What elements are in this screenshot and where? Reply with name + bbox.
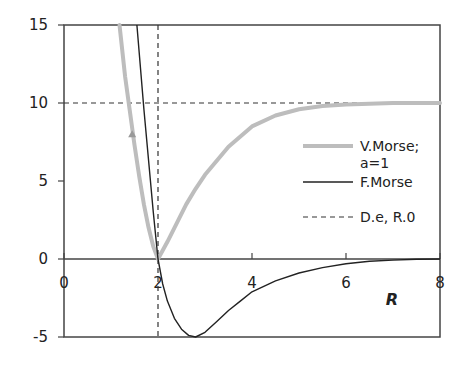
legend-vmorse-label: V.Morse;	[360, 138, 419, 154]
x-tick-label: 0	[59, 274, 69, 292]
y-tick-label: 15	[29, 16, 48, 34]
morse-potential-chart: 15 10 5 0 -5 0 2 4 6 8 R V.Morse; a=1 F.…	[0, 0, 468, 365]
x-tick-label: 4	[247, 274, 257, 292]
y-tick-label: 0	[38, 250, 48, 268]
y-tick-label: 10	[29, 94, 48, 112]
y-tick-label: 5	[38, 172, 48, 190]
x-tick-label: 8	[435, 274, 445, 292]
x-tick-label: 6	[341, 274, 351, 292]
legend-de-label: D.e, R.0	[360, 209, 415, 225]
x-axis-title: R	[386, 290, 398, 309]
legend-fmorse-label: F.Morse	[360, 174, 413, 190]
legend: V.Morse; a=1 F.Morse D.e, R.0	[303, 138, 419, 225]
legend-vmorse-label-2: a=1	[360, 155, 389, 171]
x-ticks	[64, 253, 440, 259]
y-tick-label: -5	[33, 328, 48, 346]
